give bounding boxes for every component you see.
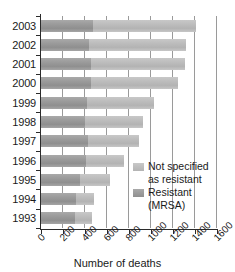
bar-row[interactable] — [41, 135, 217, 147]
stacked-bar — [41, 77, 178, 89]
bar-segment-not-specified — [76, 193, 94, 205]
stacked-bar — [41, 116, 143, 128]
legend-label-not-specified-line2: as resistant — [148, 174, 229, 186]
y-axis-label-1999: 1999 — [0, 98, 36, 109]
legend: Not specified as resistant Resistant (MR… — [133, 161, 229, 211]
x-axis-label-0: 0 — [36, 232, 47, 243]
stacked-bar-chart: 2003200220012000199919981997199619951994… — [0, 0, 235, 272]
y-axis-label-2000: 2000 — [0, 78, 36, 89]
bar-segment-not-specified — [86, 155, 124, 167]
y-tick — [36, 189, 40, 190]
legend-swatch-resistant-icon — [133, 189, 144, 197]
stacked-bar — [41, 135, 139, 147]
bar-segment-not-specified — [80, 174, 110, 186]
bar-segment-resistant — [41, 193, 76, 205]
legend-label-resistant: Resistant — [148, 187, 192, 199]
y-axis-label-1995: 1995 — [0, 175, 36, 186]
stacked-bar — [41, 39, 186, 51]
y-axis-label-1996: 1996 — [0, 156, 36, 167]
bar-segment-resistant — [41, 155, 86, 167]
stacked-bar — [41, 193, 94, 205]
y-tick — [36, 228, 40, 229]
bar-segment-resistant — [41, 39, 89, 51]
bar-row[interactable] — [41, 97, 217, 109]
bar-segment-not-specified — [89, 39, 186, 51]
x-axis-labels: 02004006008001000120014001600 — [0, 234, 235, 258]
bar-segment-not-specified — [87, 97, 155, 109]
bar-row[interactable] — [41, 77, 217, 89]
legend-item-not-specified[interactable]: Not specified — [133, 161, 229, 173]
stacked-bar — [41, 155, 124, 167]
bar-segment-resistant — [41, 97, 87, 109]
stacked-bar — [41, 58, 185, 70]
y-tick — [36, 151, 40, 152]
bar-segment-resistant — [41, 77, 91, 89]
y-axis-label-1993: 1993 — [0, 213, 36, 224]
y-axis-label-2003: 2003 — [0, 21, 36, 32]
bar-segment-not-specified — [75, 212, 92, 224]
bar-segment-resistant — [41, 135, 88, 147]
bar-row[interactable] — [41, 212, 217, 224]
y-tick — [36, 132, 40, 133]
stacked-bar — [41, 20, 196, 32]
legend-label-not-specified: Not specified — [148, 161, 209, 173]
bar-segment-resistant — [41, 174, 80, 186]
y-axis-label-2002: 2002 — [0, 40, 36, 51]
y-axis-label-1997: 1997 — [0, 136, 36, 147]
y-axis-labels: 2003200220012000199919981997199619951994… — [0, 16, 36, 228]
y-tick — [36, 74, 40, 75]
bar-row[interactable] — [41, 20, 217, 32]
bar-segment-resistant — [41, 20, 93, 32]
bar-segment-resistant — [41, 212, 75, 224]
x-axis-title: Number of deaths — [0, 258, 235, 269]
y-tick — [36, 93, 40, 94]
bar-row[interactable] — [41, 116, 217, 128]
stacked-bar — [41, 97, 154, 109]
y-axis-label-1998: 1998 — [0, 117, 36, 128]
bar-segment-not-specified — [88, 135, 139, 147]
y-tick — [36, 16, 40, 17]
legend-label-resistant-line2: (MRSA) — [148, 200, 229, 212]
y-tick — [36, 35, 40, 36]
y-tick — [36, 112, 40, 113]
y-tick — [36, 55, 40, 56]
stacked-bar — [41, 174, 110, 186]
stacked-bar — [41, 212, 92, 224]
y-axis-label-1994: 1994 — [0, 194, 36, 205]
bar-segment-not-specified — [85, 116, 143, 128]
y-axis-line — [40, 14, 41, 230]
legend-item-resistant[interactable]: Resistant — [133, 187, 229, 199]
bar-row[interactable] — [41, 39, 217, 51]
y-tick — [36, 170, 40, 171]
bar-segment-not-specified — [91, 77, 178, 89]
legend-swatch-not-specified-icon — [133, 163, 144, 171]
bar-segment-not-specified — [91, 58, 186, 70]
bar-segment-resistant — [41, 116, 85, 128]
bar-segment-resistant — [41, 58, 91, 70]
bar-row[interactable] — [41, 58, 217, 70]
bar-segment-not-specified — [93, 20, 196, 32]
y-tick — [36, 209, 40, 210]
y-axis-label-2001: 2001 — [0, 59, 36, 70]
